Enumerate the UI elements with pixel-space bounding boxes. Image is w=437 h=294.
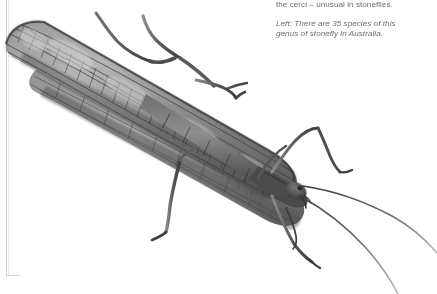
leg-hind-left	[96, 13, 175, 62]
book-page: the cerci – unusual in stoneflies. Left:…	[0, 0, 437, 294]
leg-fore-upper-right	[196, 80, 247, 98]
caption-line-cerci: the cerci – unusual in stoneflies.	[276, 0, 436, 11]
caption-paragraph-gap	[276, 11, 436, 19]
caption-block: the cerci – unusual in stoneflies. Left:…	[276, 0, 436, 40]
antenna-upper-right	[303, 186, 437, 253]
stonefly-photograph	[0, 0, 437, 294]
caption-line-left-1: Left: There are 35 species of this	[276, 19, 436, 30]
leg-mid-upper	[143, 16, 214, 86]
caption-line-left-2: genus of stonefly in Australia.	[276, 29, 436, 40]
